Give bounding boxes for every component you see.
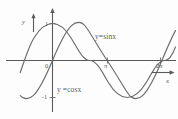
y-tick-label-one: 1 <box>45 21 48 27</box>
x-tick-label-two-pi: 2π <box>156 62 163 69</box>
origin-label: 0 <box>45 62 48 69</box>
y-axis-label: y <box>22 18 25 26</box>
y-axis-arrowhead <box>50 8 54 13</box>
x-axis-label: x <box>166 77 169 85</box>
y-direction-arrowhead <box>31 14 35 19</box>
y-direction-arrow <box>31 14 35 33</box>
x-tick-label-pi: π <box>104 62 107 69</box>
cosine-curve-label: y =cosx <box>57 85 81 94</box>
trig-graph-figure: y x 0 π 2π 1 -1 y=sinx y =cosx <box>0 0 178 119</box>
sine-curve-label: y=sinx <box>95 32 116 41</box>
x-direction-arrowhead <box>170 70 175 74</box>
graph-canvas <box>0 0 178 119</box>
y-tick-label-negative-one: -1 <box>42 94 47 100</box>
